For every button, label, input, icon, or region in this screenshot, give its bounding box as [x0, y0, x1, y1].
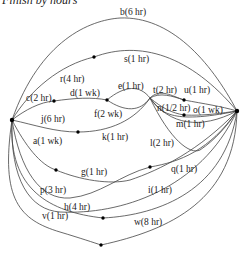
label-k: k(1 hr): [102, 132, 128, 143]
label-o: o(1 wk): [193, 105, 223, 116]
label-b: b(6 hr): [120, 7, 146, 18]
task-network-diagram: b(6 hr) s(1 hr) r(4 hr) c(2 hr) d(1 wk) …: [0, 0, 245, 257]
node-gq: [148, 165, 151, 168]
node-sink: [235, 109, 239, 113]
label-w: w(8 hr): [134, 217, 162, 228]
node-v: [99, 243, 102, 246]
node-source: [10, 118, 14, 122]
label-n: n(1/2 hr): [157, 103, 191, 114]
node-cd: [52, 99, 55, 102]
node-jk: [76, 130, 79, 133]
label-d: d(1 wk): [70, 88, 100, 99]
node-tu: [182, 98, 185, 101]
label-v: v(1 hr): [42, 211, 68, 222]
label-f: f(2 wk): [94, 109, 122, 120]
node-no: [182, 113, 185, 116]
label-l: l(2 hr): [150, 138, 174, 149]
label-p: p(3 hr): [40, 185, 66, 196]
label-s: s(1 hr): [124, 54, 149, 65]
edge-s: [94, 50, 237, 111]
node-hw: [101, 216, 104, 219]
edge-w: [103, 111, 237, 218]
label-t: t(2 hr): [153, 85, 177, 96]
label-i: i(1 hr): [148, 185, 172, 196]
edge-d: [54, 98, 107, 101]
edge-t: [150, 95, 184, 100]
label-e: e(1 hr): [118, 81, 144, 92]
node-def: [105, 98, 108, 101]
node-rs: [92, 55, 95, 58]
label-m: m(1 hr): [176, 119, 205, 130]
label-q: q(1 hr): [171, 164, 197, 175]
label-u: u(1 hr): [184, 85, 210, 96]
node-ag: [54, 168, 57, 171]
label-c: c(2 hr): [26, 93, 52, 104]
label-j: j(6 hr): [40, 114, 65, 125]
label-a: a(1 wk): [33, 136, 62, 147]
label-g: g(1 hr): [81, 167, 107, 178]
label-r: r(4 hr): [60, 74, 85, 85]
